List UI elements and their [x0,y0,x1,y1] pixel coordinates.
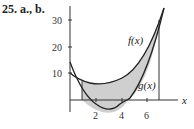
g-label: g(x) [138,79,156,92]
f-label: f(x) [128,34,144,47]
y-tick-label: 20 [52,42,62,53]
chart: 10 20 30 2 4 6 x f(x) g(x) [0,0,194,129]
x-tick-label: 2 [93,110,98,121]
x-tick-label: 4 [119,110,124,121]
y-tick-label: 30 [52,15,62,26]
x-tick-label: 6 [144,110,149,121]
y-tick-label: 10 [52,68,62,79]
x-axis-label: x [181,94,187,106]
